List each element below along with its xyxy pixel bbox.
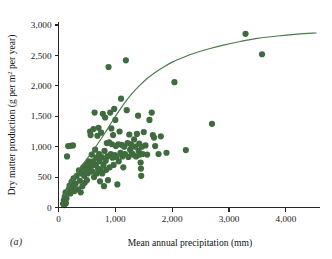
data-point — [64, 153, 70, 159]
data-point — [155, 151, 161, 157]
data-point — [105, 64, 111, 70]
y-axis-title-before: Dry matter production (g per m — [6, 74, 18, 195]
data-point — [114, 181, 120, 187]
data-point — [183, 147, 189, 153]
data-point — [70, 142, 76, 148]
figure-panel-a: 05001,0001,5002,0002,5003,000 01,0002,00… — [0, 0, 332, 259]
axes — [58, 22, 320, 208]
x-axis-title: Mean annual precipitation (mm) — [128, 237, 252, 249]
data-point — [171, 79, 177, 85]
y-axis-title-after: per year) — [6, 35, 18, 72]
data-point — [146, 117, 152, 123]
x-axis-ticks: 01,0002,0003,0004,000 — [56, 208, 296, 224]
x-tick-label: 4,000 — [276, 214, 297, 224]
data-point — [151, 134, 157, 140]
data-point — [242, 31, 248, 37]
y-tick-label: 1,000 — [31, 142, 52, 152]
data-point — [158, 133, 164, 139]
data-point — [90, 126, 96, 132]
data-point — [209, 121, 215, 127]
y-tick-label: 2,500 — [31, 51, 52, 61]
x-tick-label: 3,000 — [219, 214, 240, 224]
data-point — [118, 96, 124, 102]
data-point — [105, 177, 111, 183]
data-point — [138, 165, 144, 171]
x-tick-label: 2,000 — [162, 214, 183, 224]
data-point — [97, 178, 103, 184]
data-point — [152, 143, 158, 149]
data-point — [138, 173, 144, 179]
data-point — [111, 106, 117, 112]
data-point — [120, 164, 126, 170]
data-point — [149, 110, 155, 116]
data-point — [92, 110, 98, 116]
scatter-plot: 05001,0001,5002,0002,5003,000 01,0002,00… — [0, 0, 332, 259]
data-point — [131, 136, 137, 142]
data-point — [163, 150, 169, 156]
data-point — [134, 131, 140, 137]
data-point — [144, 151, 150, 157]
data-point — [135, 113, 141, 119]
data-point — [78, 189, 84, 195]
data-point — [101, 148, 107, 154]
data-point — [102, 114, 108, 120]
data-point — [88, 132, 94, 138]
data-point — [84, 177, 90, 183]
data-point — [117, 128, 123, 134]
y-tick-label: 500 — [38, 172, 52, 182]
data-point — [101, 183, 107, 189]
y-tick-label: 3,000 — [31, 20, 52, 30]
data-point — [123, 57, 129, 63]
x-tick-label: 1,000 — [105, 214, 126, 224]
plot-markers — [60, 31, 265, 208]
y-axis-ticks: 05001,0001,5002,0002,5003,000 — [31, 20, 59, 212]
data-point — [110, 132, 116, 138]
panel-label: (a) — [10, 236, 22, 247]
y-tick-label: 0 — [47, 203, 52, 213]
data-point — [259, 51, 265, 57]
data-point — [141, 129, 147, 135]
y-tick-label: 2,000 — [31, 81, 52, 91]
y-axis-title: Dry matter production (g per m2 per year… — [6, 35, 18, 196]
x-tick-label: 0 — [56, 214, 61, 224]
data-point — [126, 131, 132, 137]
data-point — [111, 162, 117, 168]
data-point — [124, 107, 130, 113]
y-tick-label: 1,500 — [31, 111, 52, 121]
data-point — [138, 159, 144, 165]
data-point — [142, 142, 148, 148]
